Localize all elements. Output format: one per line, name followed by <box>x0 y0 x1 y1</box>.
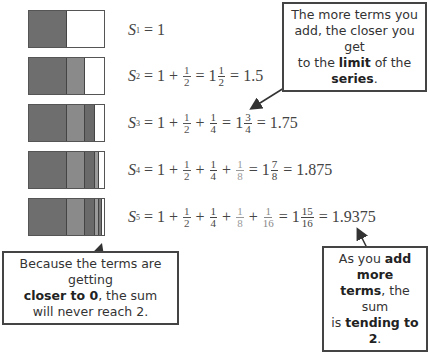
note-line: will never reach 2. <box>8 304 173 320</box>
text: As you <box>339 251 385 266</box>
bold-text: limit <box>339 55 371 70</box>
note-line: closer to 0, the sum <box>8 288 173 304</box>
bold-text: closer to 0 <box>24 288 98 303</box>
callout-limit: The more terms you add, the closer you g… <box>282 2 427 92</box>
text: . <box>377 331 381 346</box>
note-line: As you add more <box>328 251 422 283</box>
callout-tending-to-2: As you add more terms, the sum is tendin… <box>322 246 428 352</box>
text: of the <box>371 55 412 70</box>
note-line: is tending to 2. <box>328 315 422 347</box>
note-line: The more terms you <box>288 7 421 23</box>
text: , the sum <box>98 288 157 303</box>
text: . <box>374 71 378 86</box>
bold-text: series <box>331 71 373 86</box>
callout-closer-to-zero: Because the terms are getting closer to … <box>2 251 179 325</box>
note-line: add, the closer you get <box>288 23 421 55</box>
note-line: Because the terms are getting <box>8 256 173 288</box>
note-line: terms, the sum <box>328 283 422 315</box>
bold-text: terms <box>340 283 381 298</box>
note-line: to the limit of the series. <box>288 55 421 87</box>
bold-text: tending to 2 <box>345 315 418 346</box>
text: is <box>331 315 345 330</box>
text: to the <box>298 55 339 70</box>
